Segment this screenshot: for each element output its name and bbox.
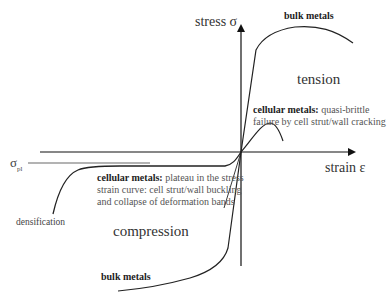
cellular-tension-title: cellular metals: [253, 104, 319, 115]
compression-region-label: compression [113, 224, 189, 239]
y-axis-label: stress σ [195, 15, 237, 29]
densification-label: densification [16, 218, 65, 228]
bulk-metals-tension-label: bulk metals [284, 11, 334, 21]
cellular-tension-line1: quasi-brittle [319, 104, 370, 115]
plateau-stress-label: σpl [10, 156, 22, 173]
cellular-compression-line1: plateau in the stress [163, 172, 244, 183]
cellular-tension-annotation: cellular metals: quasi-brittle failure b… [253, 104, 386, 128]
plateau-stress-subscript: pl [17, 165, 22, 173]
cellular-compression-annotation: cellular metals: plateau in the stress s… [97, 172, 244, 208]
bulk-metals-tension-curve [241, 27, 353, 152]
bulk-metals-compression-label: bulk metals [101, 272, 151, 282]
x-axis-label: strain ε [325, 161, 365, 175]
stress-strain-diagram [0, 0, 391, 304]
cellular-compression-title: cellular metals: [97, 172, 163, 183]
cellular-compression-line2: strain curve: cell strut/wall buckling [97, 184, 244, 196]
plateau-stress-symbol: σ [10, 155, 17, 170]
tension-region-label: tension [297, 72, 340, 87]
cellular-tension-line2: failure by cell strut/wall cracking [253, 116, 386, 128]
cellular-compression-line3: and collapse of deformation bands [97, 196, 244, 208]
